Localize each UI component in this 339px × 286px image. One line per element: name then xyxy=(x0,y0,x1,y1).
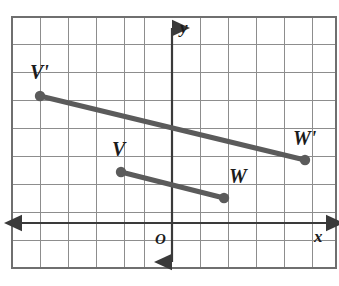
point-w-prime xyxy=(300,155,310,165)
grid-background xyxy=(12,17,336,268)
point-v-prime xyxy=(35,91,45,101)
coordinate-plane-canvas xyxy=(0,0,339,286)
x-axis-label: x xyxy=(314,228,323,245)
point-v xyxy=(116,167,126,177)
point-label-w: W xyxy=(229,166,247,186)
point-w xyxy=(219,193,229,203)
origin-label: O xyxy=(155,232,166,247)
point-label-v-prime: V' xyxy=(30,62,49,82)
coordinate-plane-figure: V' W' V W y x O xyxy=(0,0,339,286)
point-label-w-prime: W' xyxy=(293,128,316,148)
y-axis-label: y xyxy=(180,19,188,36)
point-label-v: V xyxy=(112,139,125,159)
